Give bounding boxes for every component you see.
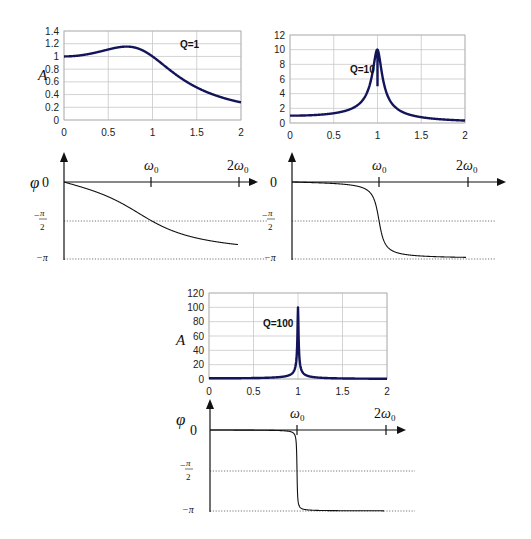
y-tick-label: 1 <box>53 51 59 62</box>
y-axis-arrow-icon <box>288 152 296 162</box>
x-tick-label: 2 <box>238 127 244 138</box>
y-tick-label: 10 <box>274 44 286 55</box>
resonance-figure: 00.20.40.60.811.21.400.511.52Q=1A0246810… <box>0 0 531 539</box>
amplitude-chart-q-1: 00.20.40.60.811.21.400.511.52Q=1A <box>37 26 244 139</box>
q-label: Q=100 <box>263 318 294 329</box>
x-tick-label: 1 <box>150 127 156 138</box>
y-tick-label: 0 <box>198 374 204 385</box>
amplitude-chart-q-10: 02468101200.511.52Q=10 <box>274 30 468 142</box>
y-tick-label: 4 <box>279 88 285 99</box>
minus-pi-label: −π <box>36 252 49 263</box>
two-omega0-label: 2ω0 <box>456 158 478 175</box>
phase-curve <box>292 182 466 257</box>
zero-label: 0 <box>190 423 197 438</box>
y-tick-label: 20 <box>193 359 205 370</box>
y-tick-label: 0.6 <box>45 76 59 87</box>
x-axis-arrow-icon <box>397 426 406 434</box>
x-tick-label: 1.5 <box>190 127 204 138</box>
q-label: Q=10 <box>350 64 375 75</box>
x-tick-label: 0 <box>61 127 67 138</box>
x-tick-label: 1.5 <box>336 386 350 397</box>
y-tick-label: 1.4 <box>45 26 59 37</box>
x-tick-label: 1 <box>375 130 381 141</box>
two-omega0-label: 2ω0 <box>227 158 249 175</box>
x-tick-label: 1.5 <box>414 130 428 141</box>
y-axis-arrow-icon <box>206 399 214 409</box>
half-pi-denominator: 2 <box>40 222 45 232</box>
x-tick-label: 2 <box>384 386 390 397</box>
half-pi-numerator: π <box>186 458 191 468</box>
phase-axis-label: φ <box>30 173 39 192</box>
half-pi-denominator: 2 <box>186 472 191 482</box>
zero-label: 0 <box>270 175 277 190</box>
y-tick-label: 100 <box>187 302 204 313</box>
omega0-label: ω0 <box>144 158 159 175</box>
two-omega0-label: 2ω0 <box>374 406 396 423</box>
y-tick-label: 80 <box>193 316 205 327</box>
x-axis-arrow-icon <box>249 178 258 186</box>
y-tick-label: 8 <box>279 59 285 70</box>
y-tick-label: 12 <box>274 30 286 41</box>
zero-label: 0 <box>42 175 49 190</box>
q-label: Q=1 <box>180 39 200 50</box>
phase-axis-label: φ <box>176 410 185 429</box>
x-tick-label: 2 <box>462 130 468 141</box>
minus-pi-label: −π <box>182 504 195 515</box>
y-tick-label: 0 <box>279 118 285 129</box>
x-tick-label: 1 <box>295 386 301 397</box>
half-pi-denominator: 2 <box>268 222 273 232</box>
amplitude-chart-q-100: 02040608010012000.511.52Q=100A <box>175 288 390 398</box>
amplitude-axis-label: A <box>37 67 48 83</box>
x-tick-label: 0.5 <box>327 130 341 141</box>
omega0-label: ω0 <box>290 406 305 423</box>
y-tick-label: 0 <box>53 115 59 126</box>
half-pi-numerator: π <box>268 208 273 218</box>
y-tick-label: 0.2 <box>45 102 59 113</box>
y-tick-label: 60 <box>193 331 205 342</box>
x-axis-arrow-icon <box>497 178 506 186</box>
y-tick-label: 6 <box>279 74 285 85</box>
half-pi-numerator: π <box>40 208 45 218</box>
amplitude-axis-label: A <box>175 332 186 348</box>
y-tick-label: 120 <box>187 288 204 299</box>
y-tick-label: 2 <box>279 103 285 114</box>
y-axis-arrow-icon <box>60 152 68 162</box>
x-tick-label: 0 <box>287 130 293 141</box>
y-tick-label: 0.8 <box>45 64 59 75</box>
minus-pi-label: −π <box>264 252 277 263</box>
x-tick-label: 0.5 <box>101 127 115 138</box>
phase-curve <box>210 430 384 511</box>
phase-chart-q10: ω02ω00−π2−π <box>262 152 506 263</box>
y-tick-label: 0.4 <box>45 89 59 100</box>
phase-curve <box>64 182 238 245</box>
omega0-label: ω0 <box>372 158 387 175</box>
y-tick-label: 1.2 <box>45 38 59 49</box>
phase-chart-q100: ω02ω00−π2−πφ <box>176 399 415 515</box>
y-tick-label: 40 <box>193 345 205 356</box>
phase-chart-q1: ω02ω00−π2−πφ <box>30 152 268 263</box>
x-tick-label: 0.5 <box>247 386 261 397</box>
x-tick-label: 0 <box>206 386 212 397</box>
